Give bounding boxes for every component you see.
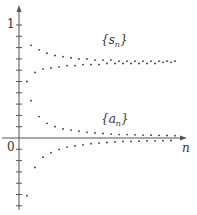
a-point	[130, 140, 132, 142]
s-point	[130, 63, 132, 65]
a-point	[106, 142, 108, 144]
s-point	[54, 55, 56, 57]
a-point	[58, 148, 60, 150]
s-point	[146, 63, 148, 65]
s-point	[142, 60, 144, 62]
a-point	[170, 140, 172, 142]
origin-label: 0	[7, 140, 15, 154]
a-point	[70, 129, 72, 131]
s-point	[166, 60, 168, 62]
a-point	[54, 126, 56, 128]
series-label-a: {an}	[101, 112, 129, 128]
s-point	[138, 63, 140, 65]
s-point	[38, 49, 40, 51]
s-point	[86, 58, 88, 60]
s-point	[90, 64, 92, 66]
a-point	[158, 134, 160, 136]
a-point	[142, 134, 144, 136]
s-point	[174, 60, 176, 62]
a-point	[154, 140, 156, 142]
a-point	[86, 131, 88, 133]
x-axis-label: n	[182, 141, 190, 155]
series-label-s: {sn}	[101, 33, 128, 49]
s-point	[34, 72, 36, 74]
s-point	[122, 63, 124, 65]
s-point	[134, 60, 136, 62]
a-point	[82, 144, 84, 146]
x-axis-arrow-icon	[180, 136, 187, 141]
a-point	[46, 122, 48, 124]
s-point	[162, 61, 164, 63]
a-point	[50, 152, 52, 154]
a-point	[62, 128, 64, 130]
a-point	[90, 143, 92, 145]
s-point	[114, 63, 116, 65]
s-point	[110, 59, 112, 61]
a-point	[110, 133, 112, 135]
a-point	[122, 140, 124, 142]
a-point	[78, 130, 80, 132]
s-point	[158, 60, 160, 62]
a-point	[166, 135, 168, 137]
a-point	[26, 195, 28, 197]
a-point	[34, 166, 36, 168]
a-point	[114, 141, 116, 143]
s-point	[170, 61, 172, 63]
a-point	[102, 133, 104, 135]
a-point	[38, 116, 40, 118]
s-point	[154, 63, 156, 65]
a-point	[134, 134, 136, 136]
s-point	[30, 44, 32, 46]
a-point	[150, 134, 152, 136]
a-point	[66, 146, 68, 148]
a-point	[174, 135, 176, 137]
s-point	[98, 64, 100, 66]
a-point	[98, 142, 100, 144]
s-point	[106, 63, 108, 65]
s-point	[62, 56, 64, 58]
y-tick-label-1: 1	[7, 17, 15, 31]
a-point	[118, 134, 120, 136]
s-point	[94, 59, 96, 61]
s-point	[26, 81, 28, 83]
y-axis-arrow-icon	[17, 5, 22, 12]
a-point	[42, 156, 44, 158]
a-point	[94, 132, 96, 134]
s-point	[118, 60, 120, 62]
s-point	[126, 60, 128, 62]
s-point	[46, 52, 48, 54]
s-point	[150, 60, 152, 62]
a-point	[126, 134, 128, 136]
plot-area	[0, 0, 197, 215]
s-point	[58, 66, 60, 68]
s-point	[78, 58, 80, 60]
chart: 1 0 n {sn} {an}	[0, 0, 197, 215]
a-point	[162, 140, 164, 142]
s-point	[50, 67, 52, 69]
s-point	[74, 65, 76, 67]
s-point	[82, 64, 84, 66]
a-point	[74, 145, 76, 147]
s-point	[70, 57, 72, 59]
a-point	[30, 100, 32, 102]
s-point	[66, 65, 68, 67]
a-point	[138, 140, 140, 142]
s-point	[42, 68, 44, 70]
a-point	[146, 140, 148, 142]
s-point	[102, 59, 104, 61]
